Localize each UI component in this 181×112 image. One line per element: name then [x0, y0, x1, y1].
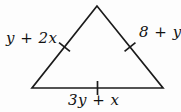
left-side-label: y + 2x [6, 31, 58, 46]
bottom-side-label: 3y + x [68, 93, 120, 108]
triangle-outline [32, 6, 163, 88]
triangle-figure: y + 2x 8 + y 3y + x [0, 0, 181, 112]
congruence-tick-marks [59, 43, 135, 95]
right-side-label: 8 + y [139, 25, 181, 40]
